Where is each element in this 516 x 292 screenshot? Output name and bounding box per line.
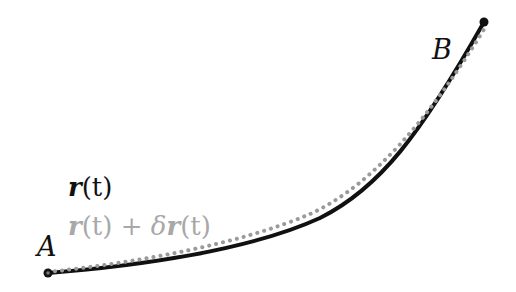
point-a-label: A (37, 233, 57, 260)
legend-varied-vec2: r (166, 211, 180, 241)
legend-varied-plus: + (112, 211, 150, 241)
legend-varied-vec: r (68, 211, 82, 241)
legend-path-arg: (t) (82, 172, 113, 202)
legend-path-vec: r (68, 172, 82, 202)
point-a-marker-inner (46, 271, 50, 275)
point-b-marker (480, 18, 489, 27)
legend-varied-path-label: r(t) + δr(t) (68, 213, 211, 239)
legend-varied-arg: (t) (82, 211, 113, 241)
point-b-label: B (432, 36, 452, 63)
legend-varied-delta: δ (151, 211, 167, 241)
legend-path-label: r(t) (68, 174, 112, 200)
legend-varied-arg2: (t) (180, 211, 211, 241)
